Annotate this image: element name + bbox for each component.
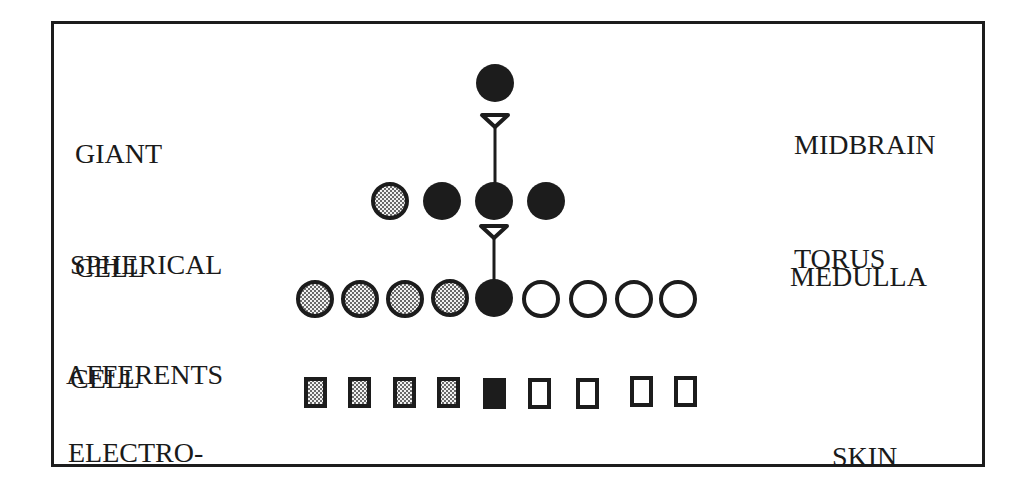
spherical-cell-stippled-icon [373,184,407,218]
electroreceptor-open-icon [676,378,695,405]
afferent-open-icon [524,282,558,316]
electroreceptor-open-icon [632,378,651,405]
electroreceptor-open-icon [578,380,597,407]
giant-cell-filled-icon [476,64,514,102]
electroreceptor-stippled-icon [350,379,369,406]
electroreceptor-open-icon [530,380,549,407]
afferent-stippled-icon [298,282,332,316]
spherical-cell-filled-icon [423,182,461,220]
afferent-stippled-icon [433,281,467,315]
pathway-diagram [0,0,1036,500]
spherical-cell-filled-icon [475,182,513,220]
electroreceptor-stippled-icon [439,379,458,406]
afferent-open-icon [571,282,605,316]
synapse-triangle-icon [481,226,507,238]
afferent-open-icon [661,282,695,316]
spherical-cell-filled-icon [527,182,565,220]
electroreceptor-filled-icon [483,378,506,409]
afferent-open-icon [617,282,651,316]
afferent-stippled-icon [388,282,422,316]
electroreceptor-stippled-icon [395,379,414,406]
afferent-stippled-icon [343,282,377,316]
electroreceptor-stippled-icon [306,379,325,406]
afferent-filled-icon [475,279,513,317]
synapse-triangle-icon [482,115,508,127]
